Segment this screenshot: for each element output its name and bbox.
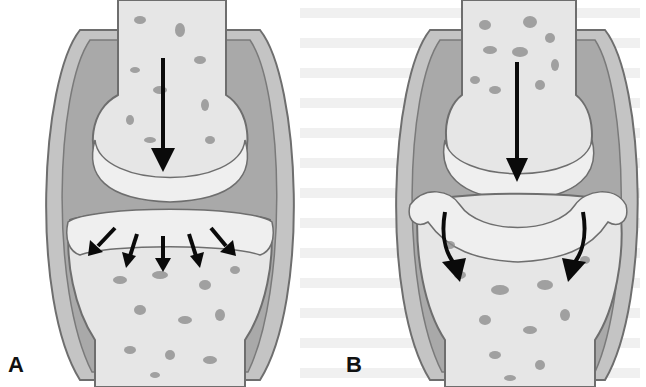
panel-a (40, 0, 300, 387)
joint-diagram-a (40, 0, 300, 387)
panel-b (390, 0, 646, 387)
panel-label-b: B (346, 352, 362, 378)
panel-label-a: A (8, 352, 24, 378)
joint-diagram-b (390, 0, 646, 387)
